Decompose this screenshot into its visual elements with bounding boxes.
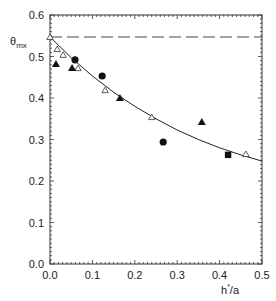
filled-circle-marker bbox=[99, 72, 106, 79]
y-tick-label: 0.2 bbox=[29, 175, 44, 187]
fit-curve-line bbox=[50, 37, 262, 161]
y-tick-label: 0.3 bbox=[29, 134, 44, 146]
axis-ticks bbox=[50, 15, 262, 264]
filled-circle-marker bbox=[160, 138, 167, 145]
y-tick-label: 0.5 bbox=[29, 51, 44, 63]
x-tick-label: 0.5 bbox=[254, 269, 269, 281]
filled-triangle-marker bbox=[198, 118, 206, 125]
y-tick-label: 0.1 bbox=[29, 217, 44, 229]
plot-frame bbox=[50, 15, 262, 264]
y-tick-label: 0.4 bbox=[29, 92, 44, 104]
x-axis-label: h*/a bbox=[221, 283, 240, 296]
x-tick-label: 0.4 bbox=[212, 269, 227, 281]
filled-circle-marker bbox=[71, 56, 78, 63]
y-tick-label: 0.0 bbox=[29, 258, 44, 270]
tick-labels: 0.00.10.20.30.40.50.00.10.20.30.40.50.6 bbox=[29, 9, 270, 281]
filled-triangle-marker bbox=[68, 64, 76, 71]
data-points bbox=[47, 34, 249, 158]
open-triangle-marker bbox=[243, 151, 249, 157]
x-tick-label: 0.2 bbox=[127, 269, 142, 281]
y-axis-label: θmx bbox=[10, 35, 27, 50]
fit-curve bbox=[50, 37, 262, 161]
filled-triangle-marker bbox=[52, 60, 60, 67]
x-tick-label: 0.1 bbox=[85, 269, 100, 281]
x-tick-label: 0.0 bbox=[42, 269, 57, 281]
filled-square-marker bbox=[225, 152, 231, 158]
x-tick-label: 0.3 bbox=[170, 269, 185, 281]
plot-border bbox=[50, 15, 262, 264]
chart: 0.00.10.20.30.40.50.00.10.20.30.40.50.6 … bbox=[0, 0, 276, 301]
y-tick-label: 0.6 bbox=[29, 9, 44, 21]
